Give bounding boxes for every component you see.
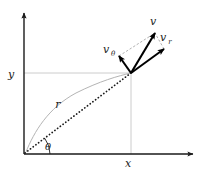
labels-group: y x r θ v v r v θ [7,15,172,170]
tangential-velocity-vector [119,56,131,73]
velocity-vector-label: v [150,15,157,28]
axes-group [24,13,193,154]
tangential-velocity-subscript: θ [111,50,116,58]
construction-lines-group [119,33,164,56]
parallelogram-edge-upper-left [119,33,155,56]
radial-velocity-subscript: r [168,38,172,46]
radius-label: r [55,98,61,111]
vectors-group [119,33,164,73]
diagram-canvas: y x r θ v v r v θ [0,0,204,175]
y-axis-label: y [7,68,15,81]
theta-angle-label: θ [45,141,51,152]
radius-line [25,73,131,153]
velocity-vector [131,33,155,73]
radial-velocity-label: v [160,31,167,44]
polar-velocity-diagram: y x r θ v v r v θ [0,0,204,175]
radial-velocity-vector [131,49,164,73]
tangential-velocity-label: v [103,43,110,56]
x-axis-label: x [125,157,132,170]
